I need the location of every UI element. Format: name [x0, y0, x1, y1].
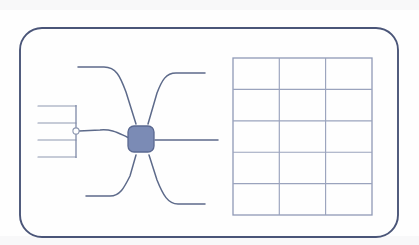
diagram-svg [0, 0, 419, 245]
table-cell-r4c3[interactable] [326, 152, 372, 183]
table-cell-r4c2[interactable] [279, 152, 325, 183]
table-cell-r5c1[interactable] [233, 184, 279, 215]
table-cell-r3c1[interactable] [233, 121, 279, 152]
table-cell-r3c2[interactable] [279, 121, 325, 152]
table-cell-r5c3[interactable] [326, 184, 372, 215]
empty-table-grid [233, 58, 372, 215]
table-cell-r1c2[interactable] [279, 58, 325, 89]
fan-junction-node[interactable] [73, 128, 79, 134]
table-cell-r1c3[interactable] [326, 58, 372, 89]
table-cell-r1c1[interactable] [233, 58, 279, 89]
table-cell-r2c1[interactable] [233, 89, 279, 120]
table-cell-r2c3[interactable] [326, 89, 372, 120]
table-cell-r3c3[interactable] [326, 121, 372, 152]
table-cell-r2c2[interactable] [279, 89, 325, 120]
central-hub-node[interactable] [128, 126, 154, 152]
table-cell-r5c2[interactable] [279, 184, 325, 215]
table-cell-r4c1[interactable] [233, 152, 279, 183]
diagram-canvas [0, 0, 419, 245]
scan-smudge-top [0, 0, 419, 10]
